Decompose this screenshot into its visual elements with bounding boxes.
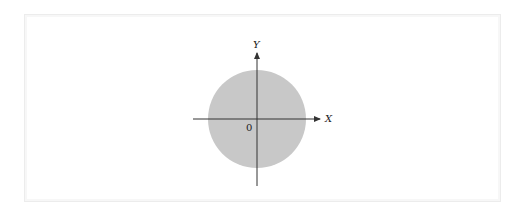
- y-axis-label: Y: [253, 39, 261, 50]
- origin-label: 0: [246, 122, 252, 133]
- x-axis-label: X: [324, 113, 333, 124]
- coordinate-diagram: X Y 0: [0, 0, 525, 217]
